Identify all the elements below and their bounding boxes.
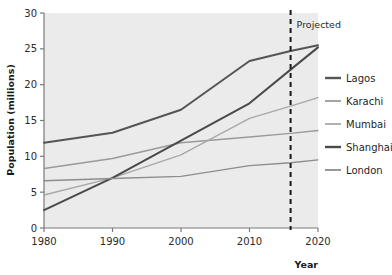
line-chart-figure: 051015202530 19801990200020102020 Projec… (0, 0, 392, 275)
x-axis-title: Year (293, 259, 318, 270)
y-tick-label: 20 (24, 79, 37, 90)
y-tick-label: 25 (24, 43, 37, 54)
y-tick-label: 0 (31, 223, 37, 234)
legend-label-mumbai: Mumbai (346, 119, 386, 130)
y-tick-label: 30 (24, 8, 37, 19)
legend-label-lagos: Lagos (346, 73, 375, 84)
plot-area-background (44, 13, 318, 228)
y-tick-label: 15 (24, 115, 37, 126)
chart-svg: 051015202530 19801990200020102020 Projec… (0, 0, 392, 275)
x-tick-label: 2000 (168, 236, 193, 247)
legend-label-london: London (346, 165, 383, 176)
x-tick-label: 2010 (237, 236, 262, 247)
x-tick-label: 2020 (305, 236, 330, 247)
x-tick-label: 1980 (31, 236, 56, 247)
x-tick-label: 1990 (100, 236, 125, 247)
legend-label-shanghai: Shanghai (346, 142, 392, 153)
y-tick-label: 5 (31, 187, 37, 198)
y-axis-title: Population (millions) (5, 64, 16, 176)
legend-label-karachi: Karachi (346, 96, 383, 107)
y-tick-label: 10 (24, 151, 37, 162)
projected-annotation-label: Projected (297, 19, 341, 30)
